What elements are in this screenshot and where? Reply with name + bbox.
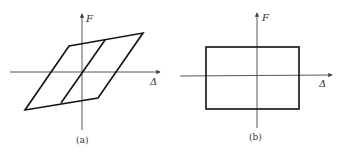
x-axis-b bbox=[180, 75, 332, 76]
panel-a: F Δ (a) bbox=[10, 13, 160, 145]
hysteresis-figure: F Δ (a) F Δ (b) bbox=[0, 0, 337, 155]
x-axis-label-b: Δ bbox=[318, 78, 326, 89]
panel-b: F Δ (b) bbox=[180, 12, 332, 142]
caption-a: (a) bbox=[76, 135, 88, 145]
inner-skew-line bbox=[61, 40, 105, 103]
y-axis-label-b: F bbox=[261, 12, 270, 23]
y-axis-label-a: F bbox=[85, 13, 94, 24]
parallelogram-loop bbox=[25, 33, 143, 110]
rectangular-loop bbox=[206, 47, 299, 109]
caption-b: (b) bbox=[249, 132, 262, 142]
x-axis-label-a: Δ bbox=[149, 76, 157, 87]
